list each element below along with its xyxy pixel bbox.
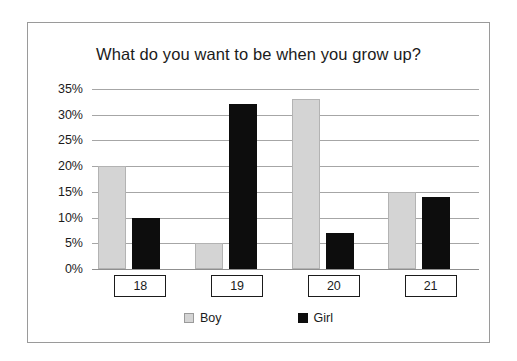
y-tick-label: 15% [37, 185, 83, 199]
bar-girl-21[interactable] [422, 197, 450, 269]
plot-area: 0%5%10%15%20%25%30%35% [92, 89, 479, 269]
y-tick-label: 30% [37, 108, 83, 122]
category-label-20: 20 [308, 275, 360, 297]
bar-group-21 [382, 89, 479, 269]
y-tick-label: 35% [37, 82, 83, 96]
gridline-0% [92, 269, 479, 270]
chart-frame: What do you want to be when you grow up?… [27, 22, 490, 343]
y-tick-label: 0% [37, 262, 83, 276]
legend-entry-girl[interactable]: Girl [298, 311, 333, 325]
bars-layer [92, 89, 479, 269]
chart-legend: BoyGirl [28, 311, 489, 325]
chart-title: What do you want to be when you grow up? [28, 45, 489, 64]
bar-boy-19[interactable] [195, 243, 223, 269]
y-tick-label: 10% [37, 211, 83, 225]
legend-swatch-girl-icon [298, 313, 308, 323]
bar-boy-21[interactable] [388, 192, 416, 269]
category-label-19: 19 [211, 275, 263, 297]
legend-swatch-boy-icon [184, 313, 194, 323]
category-label-18: 18 [114, 275, 166, 297]
legend-entry-boy[interactable]: Boy [184, 311, 222, 325]
legend-label: Girl [314, 311, 333, 325]
y-tick-label: 20% [37, 159, 83, 173]
bar-girl-18[interactable] [132, 218, 160, 269]
bar-group-18 [92, 89, 189, 269]
y-tick-label: 5% [37, 236, 83, 250]
bar-group-20 [286, 89, 383, 269]
y-tick-label: 25% [37, 133, 83, 147]
x-axis-category-labels: 18192021 [92, 275, 479, 301]
bar-boy-18[interactable] [98, 166, 126, 269]
legend-label: Boy [200, 311, 222, 325]
bar-girl-20[interactable] [326, 233, 354, 269]
bar-boy-20[interactable] [292, 99, 320, 269]
category-label-21: 21 [405, 275, 457, 297]
bar-group-19 [189, 89, 286, 269]
bar-girl-19[interactable] [229, 104, 257, 269]
